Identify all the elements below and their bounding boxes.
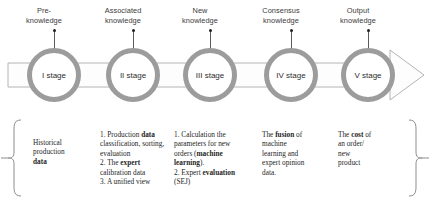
note-line: (SEJ) bbox=[174, 177, 250, 186]
note-line: learning and bbox=[262, 149, 326, 158]
note-associated-knowledge: 1. Production dataclassification, sortin… bbox=[100, 130, 170, 186]
note-line: data. bbox=[262, 168, 326, 177]
note-emphasis: learning bbox=[174, 158, 200, 167]
note-text: Historical bbox=[33, 138, 62, 147]
left-brace bbox=[1, 119, 23, 197]
stage-label: II stage bbox=[120, 71, 146, 80]
note-text: learning and bbox=[262, 149, 298, 158]
right-brace bbox=[407, 119, 429, 197]
note-line: evaluation bbox=[100, 149, 170, 158]
note-text: expert opinion bbox=[262, 158, 304, 167]
note-line: new bbox=[338, 149, 398, 158]
note-line: production bbox=[33, 147, 95, 156]
note-line: learning). bbox=[174, 158, 250, 167]
note-text: orders ( bbox=[174, 149, 197, 158]
note-text: product bbox=[338, 158, 360, 167]
note-text: of bbox=[294, 130, 302, 139]
note-text: The bbox=[338, 130, 351, 139]
stage-label: IV stage bbox=[276, 71, 305, 80]
note-line: classification, sorting, bbox=[100, 139, 170, 148]
note-emphasis: evaluation bbox=[203, 168, 235, 177]
stage-circle-5[interactable]: V stage bbox=[341, 48, 395, 102]
note-line: 3. A unified view bbox=[100, 177, 170, 186]
note-text: 2. The bbox=[100, 158, 120, 167]
header-label-associated-knowledge: Associated knowledge bbox=[86, 6, 160, 25]
stage-circle-1[interactable]: I stage bbox=[27, 48, 81, 102]
note-line: 2. The expert bbox=[100, 158, 170, 167]
process-diagram: Pre- knowledge Associated knowledge New … bbox=[0, 0, 430, 200]
left-brace-path bbox=[8, 120, 21, 196]
note-text: The bbox=[262, 130, 275, 139]
header-label-line2: knowledge bbox=[86, 16, 160, 26]
note-text: calibration data bbox=[100, 168, 145, 177]
note-new-knowledge: 1. Calculation theparameters for neworde… bbox=[174, 130, 250, 186]
stage-label: III stage bbox=[196, 71, 224, 80]
note-emphasis: machine bbox=[197, 149, 223, 158]
note-text: of bbox=[363, 130, 371, 139]
note-line: parameters for new bbox=[174, 139, 250, 148]
header-label-pre-knowledge: Pre- knowledge bbox=[7, 6, 81, 25]
note-emphasis: fusion bbox=[275, 130, 294, 139]
note-text: new bbox=[338, 149, 350, 158]
note-line: 2. Expert evaluation bbox=[174, 168, 250, 177]
note-text: production bbox=[33, 147, 65, 156]
note-line: The cost of bbox=[338, 130, 398, 139]
right-brace-path bbox=[409, 120, 422, 196]
note-text: classification, sorting, bbox=[100, 139, 164, 148]
note-text: ). bbox=[200, 158, 204, 167]
header-label-line2: knowledge bbox=[321, 16, 395, 26]
note-text: 1. Calculation the bbox=[174, 130, 226, 139]
header-label-output-knowledge: Output knowledge bbox=[321, 6, 395, 25]
header-label-consensus-knowledge: Consensus knowledge bbox=[244, 6, 318, 25]
stage-label: V stage bbox=[354, 71, 381, 80]
stage-circle-2[interactable]: II stage bbox=[106, 48, 160, 102]
header-label-line2: knowledge bbox=[7, 16, 81, 26]
header-label-line1: Consensus bbox=[244, 6, 318, 16]
note-historical-production-data: Historicalproductiondata bbox=[33, 138, 95, 166]
note-output-knowledge: The cost ofan order/newproduct bbox=[338, 130, 398, 168]
stage-circle-4[interactable]: IV stage bbox=[264, 48, 318, 102]
note-emphasis: data bbox=[33, 157, 47, 166]
header-label-line1: Associated bbox=[86, 6, 160, 16]
stage-label: I stage bbox=[42, 71, 66, 80]
note-emphasis: cost bbox=[351, 130, 363, 139]
header-label-line1: Pre- bbox=[7, 6, 81, 16]
note-line: 1. Calculation the bbox=[174, 130, 250, 139]
header-label-line1: New bbox=[163, 6, 237, 16]
note-text: 1. Production bbox=[100, 130, 141, 139]
note-text: machine bbox=[262, 139, 287, 148]
stage-circle-3[interactable]: III stage bbox=[183, 48, 237, 102]
note-emphasis: data bbox=[141, 130, 155, 139]
note-line: machine bbox=[262, 139, 326, 148]
note-line: expert opinion bbox=[262, 158, 326, 167]
note-text: (SEJ) bbox=[174, 177, 190, 186]
note-text: an order/ bbox=[338, 139, 364, 148]
note-text: parameters for new bbox=[174, 139, 230, 148]
header-label-line1: Output bbox=[321, 6, 395, 16]
note-consensus-knowledge: The fusion ofmachinelearning andexpert o… bbox=[262, 130, 326, 177]
note-line: orders (machine bbox=[174, 149, 250, 158]
note-emphasis: expert bbox=[120, 158, 140, 167]
note-line: calibration data bbox=[100, 168, 170, 177]
note-text: 2. Expert bbox=[174, 168, 203, 177]
note-text: evaluation bbox=[100, 149, 130, 158]
header-label-new-knowledge: New knowledge bbox=[163, 6, 237, 25]
note-text: 3. A unified view bbox=[100, 177, 150, 186]
note-line: data bbox=[33, 157, 95, 166]
note-line: product bbox=[338, 158, 398, 167]
note-text: data. bbox=[262, 168, 276, 177]
note-line: The fusion of bbox=[262, 130, 326, 139]
note-line: an order/ bbox=[338, 139, 398, 148]
note-line: 1. Production data bbox=[100, 130, 170, 139]
header-label-line2: knowledge bbox=[244, 16, 318, 26]
header-label-line2: knowledge bbox=[163, 16, 237, 26]
note-line: Historical bbox=[33, 138, 95, 147]
